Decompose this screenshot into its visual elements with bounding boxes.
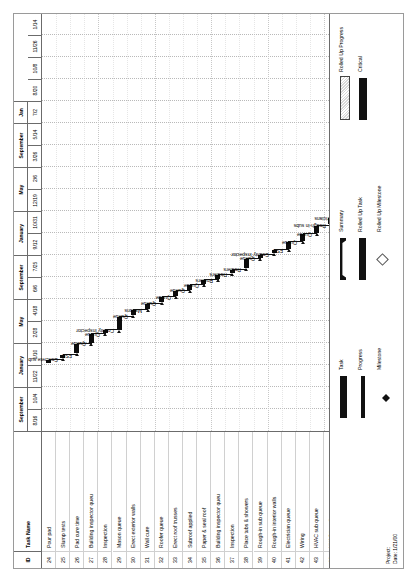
grid-hline <box>197 14 198 431</box>
cell-id: 32 <box>155 551 168 568</box>
legend-item: Task <box>336 288 355 418</box>
cell-id: 34 <box>183 551 196 568</box>
milestone-icon <box>378 394 386 402</box>
summary-bar-icon <box>340 238 346 280</box>
legend-item: Rolled Up Progress <box>336 0 355 120</box>
table-row[interactable]: 31Wall cure <box>141 432 155 568</box>
table-row[interactable]: 37Inspection <box>225 432 239 568</box>
grid-hline <box>155 14 156 431</box>
table-row[interactable]: 25Slump tests <box>56 432 70 568</box>
timeline-minor-label: 11/22 <box>28 365 42 387</box>
cell-task-name: Rough-in sub queue <box>254 431 267 551</box>
legend-item: Progress <box>355 288 374 418</box>
cell-task-name: Inspection <box>98 431 111 551</box>
table-row[interactable]: 42Wiring <box>296 432 310 568</box>
timeline-minor-label: 10/4 <box>28 387 42 409</box>
cell-task-name: Pour pad <box>42 431 55 551</box>
table-row[interactable]: 27Building inspector queu <box>84 432 98 568</box>
cell-id: 30 <box>127 551 140 568</box>
task-bar-icon <box>340 376 347 418</box>
timeline-minor-label: 6/6 <box>28 277 42 299</box>
critical-bar-icon <box>359 78 367 120</box>
timeline-header: SeptemberJanuaryMaySeptemberJanuaryMaySe… <box>14 14 42 431</box>
grid-hline <box>70 14 71 431</box>
cell-task-name: Erect roof trusses <box>169 431 182 551</box>
dependency-arrow-icon <box>188 290 192 293</box>
cell-id: 43 <box>310 551 323 568</box>
cell-task-name: Pad cure time <box>70 431 83 551</box>
legend-item: Critical <box>355 0 374 120</box>
table-row[interactable]: 28Inspection <box>98 432 112 568</box>
dependency-arrow-icon <box>230 273 234 276</box>
cell-id: 31 <box>141 551 154 568</box>
timeline-major-label: January <box>14 343 28 387</box>
timeline-major-label: September <box>14 255 28 299</box>
grid-hline <box>98 14 99 431</box>
grid-hline <box>84 14 85 431</box>
sheet-footer: Project: Date: 1/21/00 <box>385 534 399 564</box>
table-row[interactable]: 40Rough-in interior walls <box>268 432 282 568</box>
grid-hline <box>141 14 142 431</box>
cell-task-name: Mason queue <box>113 431 126 551</box>
table-row[interactable]: 35Paper & seal roof <box>197 432 211 568</box>
dependency-arrow-icon <box>174 296 178 299</box>
cell-id: 29 <box>113 551 126 568</box>
table-row[interactable]: 39Rough-in sub queue <box>254 432 268 568</box>
table-header-row: ID Task Name <box>14 432 42 568</box>
cell-id: 24 <box>42 551 55 568</box>
dependency-arrow-icon <box>146 309 150 312</box>
rolled-up-progress-icon <box>340 76 350 120</box>
timeline-major-label: September <box>14 123 28 167</box>
grid-hline <box>211 14 212 431</box>
table-row[interactable]: 36Building inspector queu <box>211 432 225 568</box>
cell-task-name: Subroof applied <box>183 431 196 551</box>
legend-column-3: Rolled Up ProgressCritical <box>336 0 398 120</box>
table-row[interactable]: 41Electrician queue <box>282 432 296 568</box>
legend-item: Milestone <box>374 288 393 418</box>
dependency-arrow-icon <box>117 330 121 333</box>
legend-label: Progress <box>357 349 363 370</box>
grid-hline <box>56 14 57 431</box>
dependency-arrow-icon <box>272 253 276 256</box>
cell-id: 40 <box>268 551 281 568</box>
cell-task-name: Building inspector queu <box>84 431 97 551</box>
dependency-arrow-icon <box>61 358 65 361</box>
column-header-id: ID <box>14 551 41 568</box>
rotated-page: ID Task Name 24Pour pad25Slump tests26Pa… <box>0 0 416 583</box>
table-row[interactable]: 29Mason queue <box>113 432 127 568</box>
table-row[interactable]: 26Pad cure time <box>70 432 84 568</box>
cell-task-name: Erect exterior walls <box>127 431 140 551</box>
table-row[interactable]: 34Subroof applied <box>183 432 197 568</box>
grid-hline <box>127 14 128 431</box>
table-row[interactable]: 43HVAC sub queue <box>310 432 324 568</box>
cell-task-name: Electrician queue <box>282 431 295 551</box>
dependency-arrow-icon <box>202 284 206 287</box>
dependency-arrow-icon <box>287 249 291 252</box>
grid-hline <box>183 14 184 431</box>
cell-id: 38 <box>239 551 252 568</box>
dependency-arrow-icon <box>244 268 248 271</box>
cell-task-name: Slump tests <box>56 431 69 551</box>
table-row[interactable]: 24Pour pad <box>42 432 56 568</box>
dependency-arrow-icon <box>301 241 305 244</box>
cell-id: 28 <box>98 551 111 568</box>
grid-hline <box>169 14 170 431</box>
table-row[interactable]: 38Place tubs & showers <box>239 432 253 568</box>
dependency-arrow-icon <box>216 279 220 282</box>
dependency-arrow-icon <box>103 333 107 336</box>
legend-item: Summary <box>336 130 355 280</box>
cell-task-name: Building inspector queu <box>211 431 224 551</box>
legend-label: Rolled Up Task <box>357 197 363 232</box>
grid-hline <box>254 14 255 431</box>
timeline-minor-label: 12/19 <box>28 189 42 211</box>
table-row[interactable]: 30Erect exterior walls <box>127 432 141 568</box>
cell-task-name: HVAC sub queue <box>310 431 323 551</box>
legend-label: Summary <box>338 210 344 232</box>
cell-id: 41 <box>282 551 295 568</box>
timeline-minor-label: 3/26 <box>28 145 42 167</box>
timeline-minor-label: 8/20 <box>28 79 42 101</box>
grid-hline <box>225 14 226 431</box>
table-row[interactable]: 33Erect roof trusses <box>169 432 183 568</box>
legend-column-1: TaskProgressMilestone <box>336 288 398 418</box>
table-row[interactable]: 32Roofer queue <box>155 432 169 568</box>
